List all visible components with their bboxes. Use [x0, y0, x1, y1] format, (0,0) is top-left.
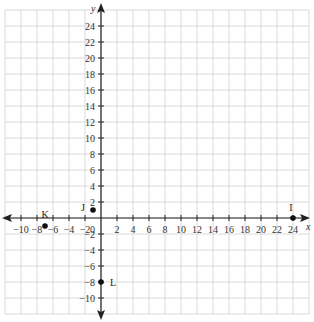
- point-label-k: K: [41, 209, 49, 220]
- point-label-i: I: [289, 202, 292, 213]
- x-tick-label: 18: [240, 224, 250, 235]
- y-tick-label: 24: [85, 21, 95, 32]
- x-tick-label: 4: [131, 224, 136, 235]
- point-k: [42, 223, 48, 229]
- y-tick-label: 14: [85, 101, 95, 112]
- y-tick-label: 20: [85, 53, 95, 64]
- y-tick-label: −4: [84, 245, 95, 256]
- y-tick-label: 22: [85, 37, 95, 48]
- y-tick-label: −10: [79, 293, 95, 304]
- x-tick-label: −10: [13, 224, 29, 235]
- y-tick-label: 18: [85, 69, 95, 80]
- point-i: [290, 215, 296, 221]
- point-label-l: L: [110, 277, 116, 288]
- x-tick-label: 6: [147, 224, 152, 235]
- y-tick-label: 6: [90, 165, 95, 176]
- tick-marks: −10−8−6−4−224681012141618202224−10−8−6−4…: [13, 21, 298, 304]
- y-tick-label: 2: [90, 197, 95, 208]
- x-tick-label: −8: [32, 224, 43, 235]
- origin-label: 0: [90, 224, 95, 235]
- x-tick-label: 16: [224, 224, 234, 235]
- y-tick-label: 16: [85, 85, 95, 96]
- y-tick-label: 12: [85, 117, 95, 128]
- x-tick-label: 14: [208, 224, 218, 235]
- y-tick-label: 10: [85, 133, 95, 144]
- x-tick-label: 12: [192, 224, 202, 235]
- coordinate-plane: xy −10−8−6−4−224681012141618202224−10−8−…: [0, 0, 314, 322]
- point-j: [90, 207, 96, 213]
- y-tick-label: −6: [84, 261, 95, 272]
- y-tick-label: 4: [90, 181, 95, 192]
- grid-lines: [5, 10, 309, 314]
- point-label-j: J: [81, 202, 85, 213]
- x-tick-label: 22: [272, 224, 282, 235]
- x-tick-label: −6: [48, 224, 59, 235]
- x-tick-label: 10: [176, 224, 186, 235]
- point-l: [98, 279, 104, 285]
- y-tick-label: −8: [84, 277, 95, 288]
- y-axis-label: y: [90, 3, 96, 14]
- axes: xy: [2, 3, 311, 320]
- x-tick-label: −4: [64, 224, 75, 235]
- y-tick-label: 8: [90, 149, 95, 160]
- x-tick-label: 8: [163, 224, 168, 235]
- x-tick-label: 2: [115, 224, 120, 235]
- x-axis-label: x: [305, 221, 311, 232]
- x-tick-label: 20: [256, 224, 266, 235]
- x-tick-label: 24: [288, 224, 298, 235]
- data-points: IJKL: [41, 202, 295, 288]
